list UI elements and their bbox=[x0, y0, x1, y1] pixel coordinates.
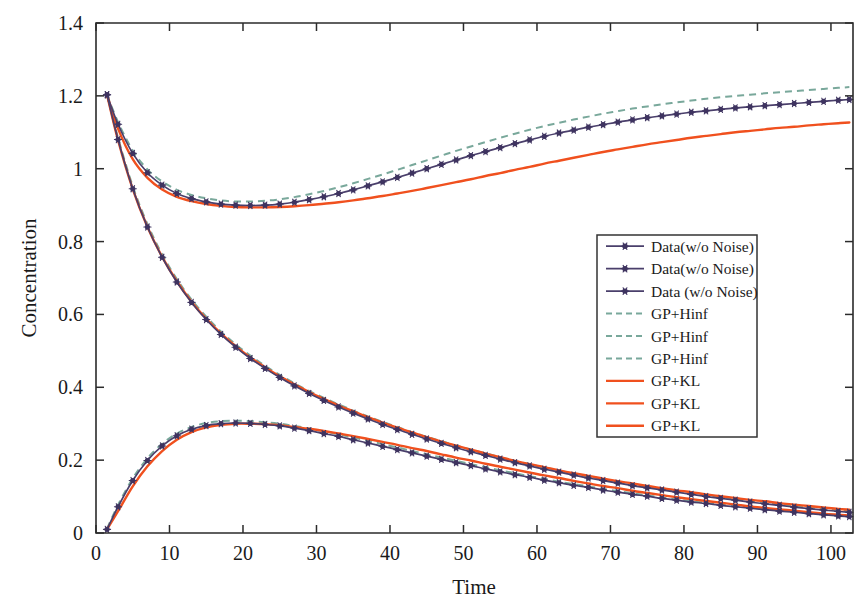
chart-figure: 010203040506070809010000.20.40.60.811.21… bbox=[0, 0, 868, 615]
x-tick-label: 10 bbox=[159, 542, 179, 564]
legend-label: GP+Hinf bbox=[651, 328, 709, 345]
x-tick-label: 20 bbox=[233, 542, 253, 564]
x-tick-label: 100 bbox=[816, 542, 846, 564]
y-tick-label: 1.2 bbox=[58, 85, 83, 107]
x-axis-title: Time bbox=[452, 575, 496, 599]
legend-label: Data(w/o Noise) bbox=[651, 260, 754, 278]
x-tick-label: 40 bbox=[380, 542, 400, 564]
y-tick-label: 0.6 bbox=[58, 303, 83, 325]
y-tick-label: 1 bbox=[73, 158, 83, 180]
x-tick-label: 50 bbox=[453, 542, 473, 564]
y-tick-label: 0.2 bbox=[58, 449, 83, 471]
x-tick-label: 30 bbox=[306, 542, 326, 564]
x-tick-label: 70 bbox=[600, 542, 620, 564]
y-tick-label: 1.4 bbox=[58, 12, 83, 34]
y-tick-label: 0 bbox=[73, 522, 83, 544]
legend-label: GP+Hinf bbox=[651, 350, 709, 367]
x-tick-label: 80 bbox=[674, 542, 694, 564]
y-tick-label: 0.4 bbox=[58, 376, 83, 398]
chart-legend[interactable]: Data(w/o Noise)Data(w/o Noise)Data (w/o … bbox=[597, 235, 758, 437]
x-tick-label: 60 bbox=[527, 542, 547, 564]
y-axis-title: Concentration bbox=[17, 218, 41, 337]
legend-label: GP+KL bbox=[651, 395, 700, 412]
legend-label: GP+KL bbox=[651, 372, 700, 389]
x-tick-label: 90 bbox=[747, 542, 767, 564]
x-tick-label: 0 bbox=[91, 542, 101, 564]
y-tick-label: 0.8 bbox=[58, 231, 83, 253]
legend-label: GP+KL bbox=[651, 417, 700, 434]
legend-label: GP+Hinf bbox=[651, 305, 709, 322]
legend-label: Data(w/o Noise) bbox=[651, 238, 754, 256]
concentration-vs-time-chart: 010203040506070809010000.20.40.60.811.21… bbox=[0, 0, 868, 615]
legend-label: Data (w/o Noise) bbox=[651, 283, 758, 301]
